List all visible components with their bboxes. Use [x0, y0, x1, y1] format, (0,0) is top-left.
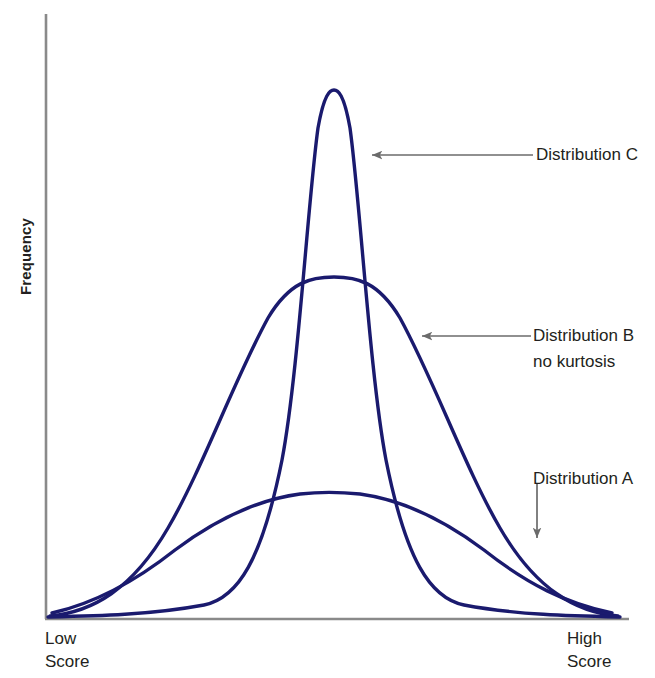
- chart-figure: Frequency Low Score High Score Distribut…: [0, 0, 655, 678]
- x-axis-high-line1: High: [567, 629, 602, 648]
- annotation-arrows: [372, 155, 537, 538]
- x-axis-high-label: High Score: [567, 627, 611, 673]
- annotation-distribution-c: Distribution C: [536, 142, 638, 168]
- annotation-distribution-a: Distribution A: [533, 466, 633, 492]
- annotation-distribution-c-label: Distribution C: [536, 145, 638, 164]
- curve-distribution-a: [52, 493, 612, 614]
- x-axis-high-line2: Score: [567, 652, 611, 671]
- x-axis-low-line2: Score: [45, 652, 89, 671]
- annotation-distribution-b: Distribution B no kurtosis: [533, 323, 634, 375]
- x-axis-low-label: Low Score: [45, 627, 89, 673]
- annotation-distribution-b-sublabel: no kurtosis: [533, 349, 634, 375]
- y-axis-title: Frequency: [17, 197, 34, 317]
- axis-lines: [45, 14, 629, 619]
- x-axis-low-line1: Low: [45, 629, 76, 648]
- annotation-distribution-a-label: Distribution A: [533, 469, 633, 488]
- annotation-distribution-b-label: Distribution B: [533, 326, 634, 345]
